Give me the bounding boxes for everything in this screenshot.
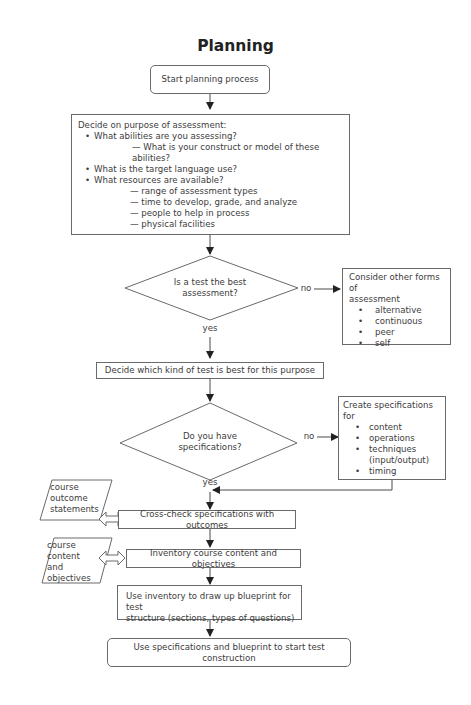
edge-label-test-yes: yes	[198, 323, 222, 334]
construction-node: Use specifications and blueprint to star…	[107, 638, 351, 667]
purpose-subitem-range: — range of assessment types	[94, 186, 349, 197]
other-form-continuous: continuous	[375, 316, 422, 326]
which-test-node: Decide which kind of test is best for th…	[96, 362, 324, 379]
input-course-content: course content and objectives	[47, 540, 91, 584]
purpose-subitem-facilities: — physical facilities	[94, 219, 349, 230]
inventory-node: Inventory course content and objectives	[126, 549, 301, 568]
input-course-outcomes: course outcome statements	[50, 482, 99, 515]
blueprint-node: Use inventory to draw up blueprint for t…	[117, 585, 302, 620]
decision-test-best: Is a test the best assessment?	[160, 277, 260, 299]
create-specs-node: Create specifications for •content •oper…	[338, 396, 446, 480]
purpose-item-abilities: What abilities are you assessing?	[94, 131, 237, 141]
edge-label-test-no: no	[298, 283, 314, 294]
other-form-alternative: alternative	[375, 305, 422, 315]
purpose-node: Decide on purpose of assessment: •What a…	[71, 114, 350, 235]
decision-have-specs: Do you have specifications?	[160, 431, 260, 453]
diagram-title: Planning	[0, 37, 471, 55]
spec-operations: operations	[369, 433, 415, 443]
spec-timing: timing	[369, 466, 396, 476]
edge-label-specs-no: no	[301, 431, 317, 442]
spec-techniques-detail: (input/output)	[343, 455, 445, 466]
start-node: Start planning process	[150, 65, 270, 94]
purpose-subitem-time: — time to develop, grade, and analyze	[94, 197, 349, 208]
cross-check-node: Cross-check specifications with outcomes	[118, 510, 296, 529]
purpose-subitem-people: — people to help in process	[94, 208, 349, 219]
other-form-peer: peer	[375, 327, 395, 337]
purpose-heading: Decide on purpose of assessment:	[78, 120, 349, 131]
spec-techniques: techniques	[369, 444, 416, 454]
purpose-subitem-construct: — What is your construct or model of the…	[94, 142, 349, 164]
other-form-self: self	[375, 338, 390, 348]
edge-label-specs-yes: yes	[198, 477, 222, 488]
purpose-item-resources: What resources are available?	[94, 175, 224, 185]
purpose-item-tlu: What is the target language use?	[94, 164, 237, 174]
other-forms-node: Consider other forms of assessment •alte…	[342, 268, 451, 345]
spec-content: content	[369, 422, 402, 432]
